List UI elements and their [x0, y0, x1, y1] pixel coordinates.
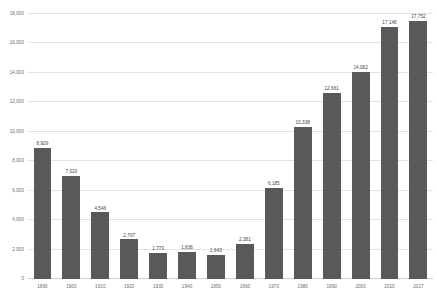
x-axis-tick-label: 1940 — [182, 284, 192, 289]
bar-slot: 2,3811960 — [230, 14, 259, 279]
bar-value-label: 8,929 — [37, 141, 49, 146]
y-axis-tick-label: 6,000 — [12, 187, 24, 192]
bar-slot: 4,5461910 — [86, 14, 115, 279]
bars-group: 8,92918907,02019004,54619102,70719201,77… — [28, 14, 433, 279]
x-axis-tick-label: 1890 — [37, 284, 47, 289]
bar[interactable] — [323, 93, 341, 279]
bar[interactable] — [178, 252, 196, 279]
bar[interactable] — [265, 188, 283, 279]
bar-value-label: 10,338 — [296, 120, 310, 125]
y-axis-tick-label: 16,000 — [10, 40, 24, 45]
bar-slot: 14,0622000 — [346, 14, 375, 279]
y-axis-tick-label: 4,000 — [12, 217, 24, 222]
bar-value-label: 1,836 — [181, 245, 193, 250]
x-axis-tick-label: 1990 — [326, 284, 336, 289]
x-axis-tick-label: 1960 — [240, 284, 250, 289]
y-axis-tick-label: 0 — [21, 276, 24, 281]
y-axis-tick-label: 18,000 — [10, 11, 24, 16]
x-axis-tick-label: 1920 — [124, 284, 134, 289]
bar-value-label: 2,707 — [123, 233, 135, 238]
x-axis-tick-label: 2000 — [355, 284, 365, 289]
bar-slot: 1,6431950 — [202, 14, 231, 279]
bar-value-label: 12,661 — [325, 86, 339, 91]
bar-value-label: 14,062 — [353, 65, 367, 70]
bar-slot: 10,3381980 — [288, 14, 317, 279]
x-axis-tick-label: 1950 — [211, 284, 221, 289]
y-axis-tick-label: 12,000 — [10, 99, 24, 104]
x-axis-tick-label: 1910 — [95, 284, 105, 289]
x-axis-tick-label: 2010 — [384, 284, 394, 289]
x-axis-tick-label: 1900 — [66, 284, 76, 289]
bar-slot: 8,9291890 — [28, 14, 57, 279]
bar[interactable] — [236, 244, 254, 279]
y-axis-tick-label: 10,000 — [10, 128, 24, 133]
bar-slot: 17,7522017 — [404, 14, 433, 279]
bar-slot: 7,0201900 — [57, 14, 86, 279]
bar-value-label: 2,381 — [239, 237, 251, 242]
bar[interactable] — [91, 212, 109, 279]
bar-value-label: 1,643 — [210, 248, 222, 253]
bar[interactable] — [381, 27, 399, 279]
bar[interactable] — [62, 176, 80, 279]
y-axis-tick-label: 2,000 — [12, 246, 24, 251]
bar-slot: 12,6611990 — [317, 14, 346, 279]
bar[interactable] — [34, 148, 52, 279]
bar[interactable] — [352, 72, 370, 279]
bar-value-label: 4,546 — [94, 206, 106, 211]
bar[interactable] — [409, 21, 427, 280]
x-axis-tick-label: 1930 — [153, 284, 163, 289]
bar[interactable] — [149, 253, 167, 279]
bar-slot: 1,8361940 — [173, 14, 202, 279]
bar-value-label: 1,770 — [152, 246, 164, 251]
bar-slot: 2,7071920 — [115, 14, 144, 279]
bar[interactable] — [120, 239, 138, 279]
bar[interactable] — [207, 255, 225, 279]
plot-area: 02,0004,0006,0008,00010,00012,00014,0001… — [28, 14, 433, 279]
bar-chart: 02,0004,0006,0008,00010,00012,00014,0001… — [0, 0, 437, 301]
bar-value-label: 17,752 — [411, 14, 425, 19]
bar-slot: 1,7701930 — [144, 14, 173, 279]
bar-value-label: 17,148 — [382, 20, 396, 25]
bar-value-label: 7,020 — [66, 169, 78, 174]
bar-slot: 6,1851970 — [259, 14, 288, 279]
y-axis-tick-label: 8,000 — [12, 158, 24, 163]
bar[interactable] — [294, 127, 312, 279]
y-axis-tick-label: 14,000 — [10, 69, 24, 74]
x-axis-tick-label: 1970 — [269, 284, 279, 289]
x-axis-tick-label: 2017 — [413, 284, 423, 289]
bar-slot: 17,1482010 — [375, 14, 404, 279]
x-axis-tick-label: 1980 — [298, 284, 308, 289]
bar-value-label: 6,185 — [268, 181, 280, 186]
